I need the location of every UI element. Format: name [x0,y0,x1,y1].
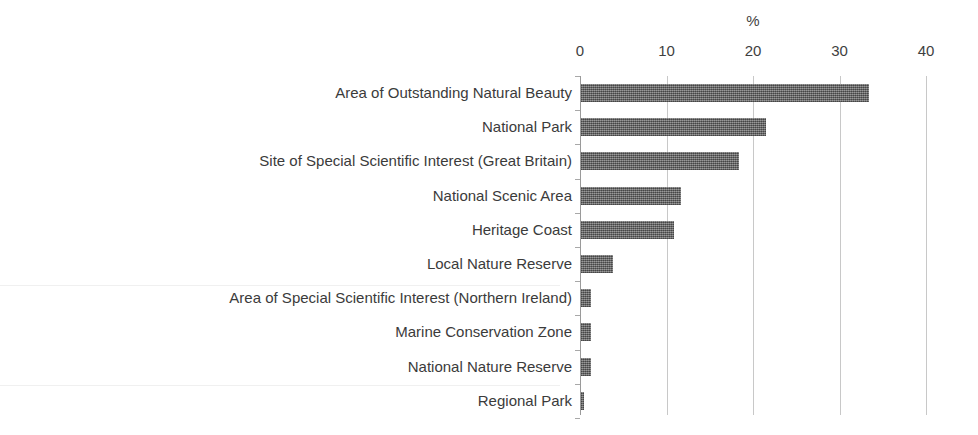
bar [581,289,591,307]
bar [581,221,674,239]
category-axis-tick [575,315,580,316]
x-tick-label: 30 [817,42,863,59]
category-label: National Scenic Area [140,187,572,205]
x-tick-label: 10 [644,42,690,59]
category-axis-tick [575,350,580,351]
category-axis-tick [575,418,580,419]
bar [581,118,766,136]
plot-area [580,76,926,415]
category-label: Area of Outstanding Natural Beauty [140,84,572,102]
bar [581,187,681,205]
bar-rows [580,76,926,415]
category-label: Local Nature Reserve [140,255,572,273]
category-label: Regional Park [140,392,572,410]
category-axis-tick [575,76,580,77]
category-axis-tick [575,179,580,180]
category-label: National Nature Reserve [140,358,572,376]
bar [581,84,869,102]
category-axis-tick [575,247,580,248]
category-label: Site of Special Scientific Interest (Gre… [140,152,572,170]
x-tick-label: 40 [903,42,949,59]
category-label: Marine Conservation Zone [140,323,572,341]
category-axis-tick [575,384,580,385]
category-label: Heritage Coast [140,221,572,239]
category-axis-tick [575,213,580,214]
bar [581,255,613,273]
category-axis-tick [575,110,580,111]
bar [581,358,591,376]
bar [581,152,739,170]
category-label: Area of Special Scientific Interest (Nor… [140,289,572,307]
x-tick-label: 0 [557,42,603,59]
x-axis-tick-labels: 010203040 [0,42,978,64]
bar-chart: % 010203040 Area of Outstanding Natural … [0,0,978,435]
category-axis-tick [575,144,580,145]
bar [581,392,584,410]
category-label: National Park [140,118,572,136]
x-axis-title: % [735,12,771,29]
gridline [926,76,927,415]
bar [581,323,591,341]
category-axis-tick [575,281,580,282]
x-tick-label: 20 [730,42,776,59]
y-axis-category-labels: Area of Outstanding Natural BeautyNation… [140,76,572,418]
